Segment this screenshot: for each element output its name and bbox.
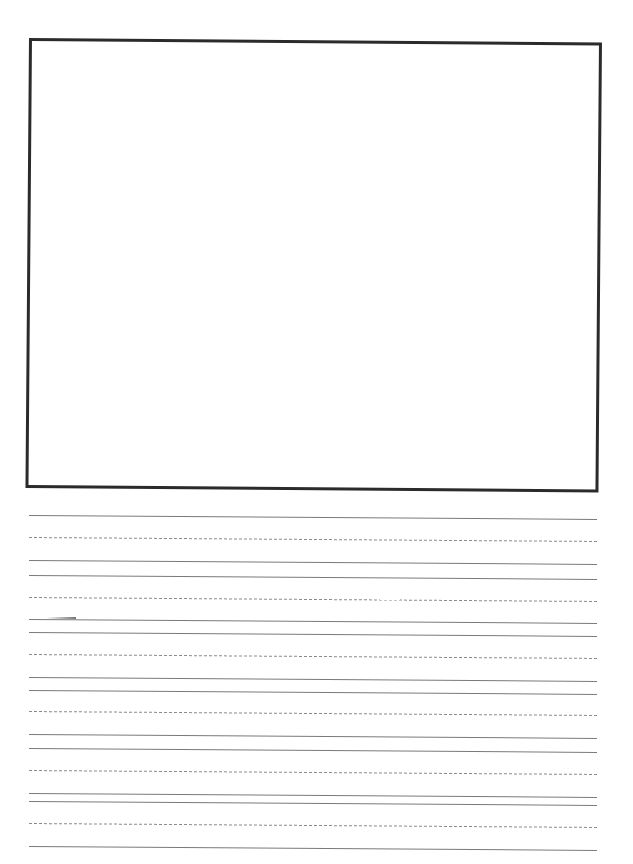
midline-dashed — [29, 654, 597, 659]
baseline — [29, 734, 597, 739]
top-line — [29, 632, 597, 637]
top-line — [29, 575, 597, 580]
midline-dashed — [29, 823, 597, 828]
worksheet-page — [0, 0, 633, 864]
top-line — [29, 801, 597, 806]
baseline — [29, 793, 597, 798]
midline-dashed — [29, 537, 597, 542]
baseline — [29, 846, 597, 851]
midline-dashed — [29, 770, 597, 775]
handwriting-lines-area — [0, 0, 633, 864]
top-line — [29, 748, 597, 753]
baseline — [29, 677, 597, 682]
top-line — [29, 515, 597, 520]
midline-dashed — [29, 597, 597, 602]
dashed-line-gap — [380, 594, 400, 600]
baseline — [29, 619, 597, 624]
top-line — [29, 690, 597, 695]
pencil-smudge — [46, 617, 76, 619]
midline-dashed — [29, 711, 597, 716]
baseline — [29, 560, 597, 565]
